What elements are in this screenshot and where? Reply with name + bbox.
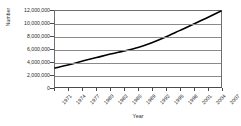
y-tick-label: 8,000,000 [27, 33, 50, 39]
gridline [55, 37, 221, 38]
x-tick-label: 1995 [172, 93, 184, 105]
x-tick-label: 2001 [200, 93, 212, 105]
x-tick-label: 1983 [116, 93, 128, 105]
y-tick-label: 2,000,000 [27, 72, 50, 78]
x-tick-mark [54, 88, 55, 91]
x-axis-title: Year [54, 113, 222, 120]
series-path-number [55, 11, 221, 68]
x-tick-mark [194, 88, 195, 91]
x-tick-mark [82, 88, 83, 91]
x-tick-label: 1989 [144, 93, 156, 105]
x-tick-label: 2004 [214, 93, 226, 105]
x-tick-label: 1992 [158, 93, 170, 105]
y-tick-mark [50, 75, 54, 76]
x-tick-mark [96, 88, 97, 91]
y-tick-label: 10,000,000 [24, 20, 50, 26]
x-tick-mark [110, 88, 111, 91]
gridline [55, 24, 221, 25]
x-tick-mark [180, 88, 181, 91]
gridline [55, 63, 221, 64]
y-tick-mark [50, 49, 54, 50]
x-tick-label: 1998 [186, 93, 198, 105]
y-tick-mark [50, 23, 54, 24]
gridline [55, 76, 221, 77]
y-tick-mark [50, 36, 54, 37]
x-tick-label: 1977 [88, 93, 100, 105]
line-chart: Number 02,000,0004,000,0006,000,0008,000… [0, 0, 241, 126]
x-tick-mark [68, 88, 69, 91]
x-tick-label: 1986 [130, 93, 142, 105]
y-tick-label: 12,000,000 [24, 7, 50, 13]
x-tick-mark [138, 88, 139, 91]
x-tick-mark [222, 88, 223, 91]
y-tick-mark [50, 62, 54, 63]
y-axis-tick-labels: 02,000,0004,000,0006,000,0008,000,00010,… [10, 6, 52, 90]
x-tick-mark [208, 88, 209, 91]
y-tick-mark [50, 10, 54, 11]
x-tick-label: 1980 [102, 93, 114, 105]
x-tick-label: 1971 [60, 93, 72, 105]
x-tick-label: 1974 [74, 93, 86, 105]
x-tick-label: 2007 [228, 93, 240, 105]
x-tick-mark [124, 88, 125, 91]
x-tick-mark [152, 88, 153, 91]
gridline [55, 50, 221, 51]
plot-area [54, 10, 222, 88]
y-tick-label: 6,000,000 [27, 46, 50, 52]
x-tick-mark [166, 88, 167, 91]
y-tick-label: 4,000,000 [27, 59, 50, 65]
